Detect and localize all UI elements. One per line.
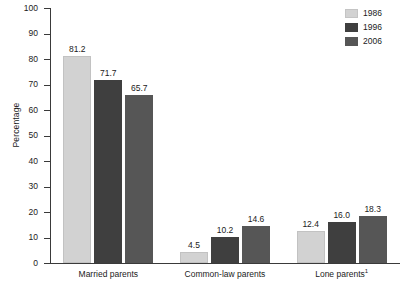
y-axis-tick-label: 70 (0, 80, 38, 89)
bar-2006-2 (359, 216, 387, 263)
y-axis-tick-label: 100 (0, 4, 38, 13)
legend-label: 1986 (363, 9, 382, 18)
y-axis-tick-label: 80 (0, 55, 38, 64)
legend: 198619962006 (345, 7, 411, 49)
y-axis-tick-label: 60 (0, 106, 38, 115)
x-axis-category-label: Lone parents1 (283, 270, 400, 279)
y-axis-tick-label: 20 (0, 208, 38, 217)
bar-value-label: 18.3 (353, 205, 393, 214)
bar-1996-1 (211, 237, 239, 263)
x-axis-line (50, 263, 400, 264)
y-axis-tick-label: 50 (0, 131, 38, 140)
y-axis-tick-label: 10 (0, 233, 38, 242)
x-axis-category-label: Common-law parents (167, 270, 284, 279)
bar-2006-1 (242, 226, 270, 263)
y-axis-tick-label: 90 (0, 29, 38, 38)
legend-item-1986: 1986 (345, 7, 411, 20)
bar-2006-0 (125, 95, 153, 263)
y-axis-tick-label: 30 (0, 182, 38, 191)
bar-value-label: 65.7 (119, 84, 159, 93)
legend-swatch-1986 (345, 9, 358, 18)
footnote-marker: 1 (365, 268, 368, 274)
legend-item-2006: 2006 (345, 35, 411, 48)
legend-swatch-2006 (345, 37, 358, 46)
bar-value-label: 14.6 (236, 215, 276, 224)
y-axis-tick-label: 0 (0, 259, 38, 268)
legend-item-1996: 1996 (345, 21, 411, 34)
legend-label: 1996 (363, 23, 382, 32)
bar-1986-1 (180, 252, 208, 263)
bar-value-label: 12.4 (291, 220, 331, 229)
legend-label: 2006 (363, 37, 382, 46)
x-axis-category-label: Married parents (50, 270, 167, 279)
bar-value-label: 81.2 (57, 45, 97, 54)
bar-value-label: 71.7 (88, 69, 128, 78)
bar-1986-0 (63, 56, 91, 263)
bar-chart: Percentage 0102030405060708090100 81.271… (0, 0, 413, 291)
y-axis-tick-label: 40 (0, 157, 38, 166)
y-axis-tick (44, 263, 50, 264)
bar-1986-2 (297, 231, 325, 263)
bar-1996-2 (328, 222, 356, 263)
bar-value-label: 10.2 (205, 226, 245, 235)
bar-value-label: 4.5 (174, 241, 214, 250)
legend-swatch-1996 (345, 23, 358, 32)
bar-1996-0 (94, 80, 122, 263)
